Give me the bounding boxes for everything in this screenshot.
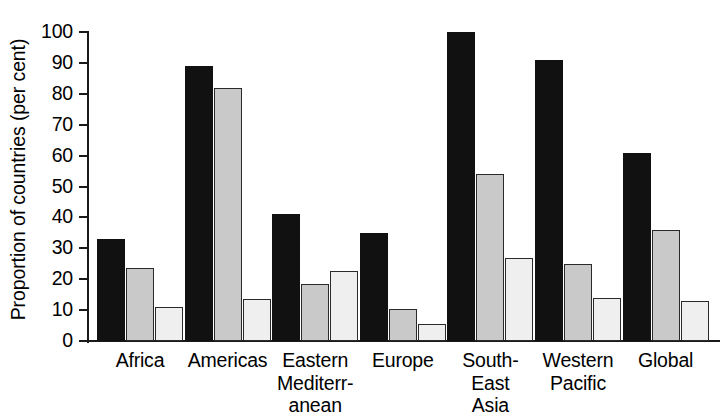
bar — [652, 230, 680, 341]
bar — [330, 271, 358, 341]
bar — [155, 307, 183, 341]
y-tick-mark — [79, 62, 88, 64]
y-tick-label: 80 — [13, 84, 73, 104]
bar — [447, 32, 475, 341]
bar — [623, 153, 651, 341]
y-tick-label: 20 — [13, 269, 73, 289]
bar — [214, 88, 242, 341]
y-tick-mark — [79, 186, 88, 188]
y-tick-label: 0 — [13, 331, 73, 351]
y-tick-label: 100 — [13, 22, 73, 42]
y-tick-label: 50 — [13, 177, 73, 197]
x-axis-label-line: anean — [240, 394, 390, 417]
bar — [97, 239, 125, 341]
x-axis-label-line: Mediterr- — [240, 372, 390, 395]
y-tick-label: 40 — [13, 207, 73, 227]
bar — [681, 301, 709, 341]
bar-chart: Proportion of countries (per cent) 01020… — [0, 0, 724, 418]
y-tick-mark — [79, 340, 88, 342]
y-tick-mark — [79, 93, 88, 95]
bar — [476, 174, 504, 341]
bar — [301, 284, 329, 341]
bar — [243, 299, 271, 341]
y-tick-label: 70 — [13, 115, 73, 135]
y-tick-mark — [79, 124, 88, 126]
bar — [418, 324, 446, 341]
bar — [535, 60, 563, 341]
y-tick-label: 30 — [13, 238, 73, 258]
x-axis-label-line: Asia — [415, 394, 565, 417]
y-tick-label: 60 — [13, 146, 73, 166]
x-axis-label-line: Pacific — [503, 372, 653, 395]
x-axis-label: Global — [591, 349, 724, 372]
bar — [126, 268, 154, 341]
y-tick-label: 10 — [13, 300, 73, 320]
bar — [505, 258, 533, 341]
y-tick-mark — [79, 216, 88, 218]
y-tick-mark — [79, 278, 88, 280]
y-tick-mark — [79, 309, 88, 311]
bar — [272, 214, 300, 341]
y-tick-mark — [79, 31, 88, 33]
bar — [564, 264, 592, 341]
y-tick-label: 90 — [13, 53, 73, 73]
bar — [185, 66, 213, 341]
bar — [593, 298, 621, 341]
bar — [360, 233, 388, 341]
y-tick-mark — [79, 247, 88, 249]
bar — [389, 309, 417, 341]
y-tick-mark — [79, 155, 88, 157]
x-axis-label-line: Global — [591, 349, 724, 372]
